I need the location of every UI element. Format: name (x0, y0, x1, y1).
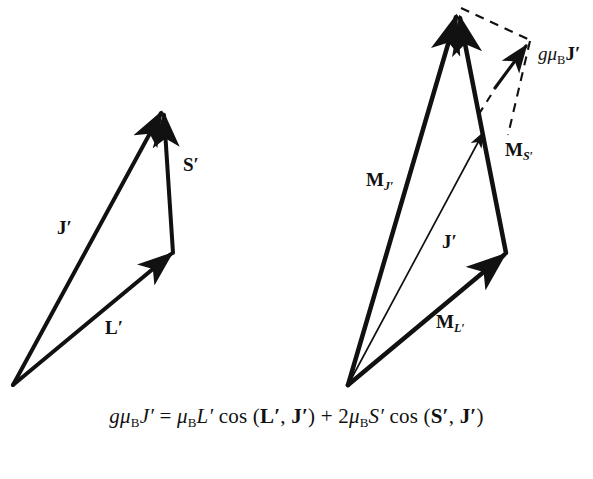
eq-comma-2: , (449, 404, 454, 428)
label-J-prime-left: J′ (57, 218, 72, 237)
eq-open-paren-2: ( (424, 404, 431, 428)
eq-vec-S: S (431, 404, 443, 428)
eq-prime-2: ′ (208, 404, 213, 428)
eq-L: L (197, 404, 209, 428)
eq-vec-J-1: J (291, 404, 302, 428)
eq-plus: + (321, 404, 333, 428)
eq-two: 2 (338, 404, 349, 428)
eq-cos-1: cos (219, 404, 248, 428)
dashed-line-apex-to-gmu (461, 8, 530, 40)
eq-mu-1: μ (120, 404, 131, 428)
eq-sub-B-2: B (188, 415, 197, 430)
vector-M-S-prime (460, 18, 506, 253)
eq-vec-L: L (260, 404, 274, 428)
eq-sub-B-1: B (131, 415, 140, 430)
label-J-prime-right: J′ (442, 232, 457, 251)
eq-mu-3: μ (349, 404, 360, 428)
eq-J-1: J (140, 404, 150, 428)
vector-S-prime-left (164, 115, 173, 253)
vector-J-prime-left (13, 113, 161, 385)
eq-close-paren-2: ) (476, 404, 483, 428)
eq-comma-1: , (280, 404, 285, 428)
eq-prime-1: ′ (149, 404, 154, 428)
eq-prime-5: ′ (379, 404, 384, 428)
eq-sub-B-3: B (360, 415, 369, 430)
label-M-S-prime: MS′ (505, 140, 533, 162)
eq-cos-2: cos (389, 404, 418, 428)
eq-open-paren-1: ( (253, 404, 260, 428)
vector-M-L-prime (348, 255, 504, 385)
label-g-mu-B-J-prime: gμBJ′ (538, 44, 580, 66)
left-diagram-group (13, 113, 173, 385)
eq-close-paren-1: ) (308, 404, 315, 428)
lande-g-factor-equation: gμBJ′ = μBL′ cos (L′, J′) + 2μBS′ cos (S… (0, 404, 593, 431)
eq-vec-J-2: J (460, 404, 471, 428)
figure-canvas: J′ L′ S′ MJ′ ML′ MS′ J′ gμBJ′ gμBJ′ = μB… (0, 0, 593, 479)
vector-g-mu-B-J-prime (495, 46, 526, 88)
eq-g: g (109, 404, 120, 428)
label-M-L-prime: ML′ (436, 312, 465, 334)
eq-equals: = (159, 404, 171, 428)
label-M-J-prime: MJ′ (366, 170, 393, 192)
eq-mu-2: μ (177, 404, 188, 428)
eq-S: S (369, 404, 380, 428)
label-S-prime-left: S′ (183, 155, 199, 174)
vector-L-prime-left (13, 254, 171, 385)
label-L-prime-left: L′ (105, 318, 123, 337)
